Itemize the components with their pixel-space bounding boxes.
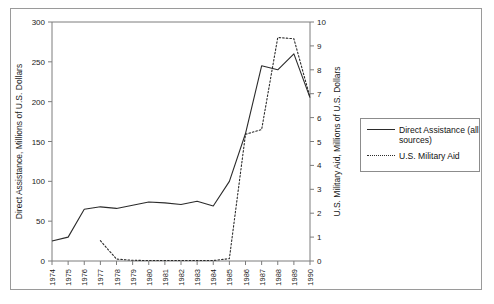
legend-dotted-line-icon: [366, 151, 396, 161]
left-axis-tick-label: 250: [32, 58, 46, 67]
x-axis-tick-label: 1988: [274, 269, 283, 286]
right-axis-tick-label: 8: [317, 66, 322, 75]
right-axis-tick-label: 0: [317, 257, 322, 266]
legend-entry-military-aid: U.S. Military Aid: [366, 151, 460, 161]
right-axis-tick-label: 4: [317, 161, 322, 170]
left-axis-tick-label: 150: [32, 138, 46, 147]
right-axis: 012345678910: [310, 18, 326, 266]
x-axis-tick-label: 1985: [225, 269, 234, 286]
legend-label-military-aid: U.S. Military Aid: [399, 151, 460, 161]
left-axis-tick-label: 200: [32, 98, 46, 107]
x-axis-tick-label: 1987: [258, 269, 267, 286]
legend-label-direct-assistance: Direct Assistance (all sources): [399, 125, 479, 145]
left-axis-title: Direct Assistance, Millions of U.S. Doll…: [14, 64, 24, 219]
x-axis-tick-label: 1989: [290, 269, 299, 286]
left-axis-tick-label: 0: [41, 257, 46, 266]
left-axis-tick-label: 50: [36, 217, 45, 226]
x-axis-tick-label: 1976: [80, 269, 89, 286]
right-axis-tick-label: 2: [317, 209, 322, 218]
right-axis-tick-label: 9: [317, 42, 322, 51]
x-axis-tick-label: 1974: [48, 269, 57, 286]
right-axis-tick-label: 10: [317, 18, 326, 27]
x-axis-tick-label: 1986: [242, 269, 251, 286]
x-axis-tick-label: 1981: [161, 269, 170, 286]
legend-solid-line-icon: [366, 125, 396, 135]
left-axis-tick-label: 100: [32, 177, 46, 186]
x-axis-tick-label: 1978: [113, 269, 122, 286]
x-axis-tick-label: 1983: [193, 269, 202, 286]
legend: Direct Assistance (all sources) U.S. Mil…: [360, 118, 480, 172]
right-axis-tick-label: 7: [317, 90, 322, 99]
data-series-group: [52, 38, 310, 261]
x-axis-tick-label: 1975: [64, 269, 73, 286]
right-axis-tick-label: 6: [317, 114, 322, 123]
right-axis-title: U.S. Military Aid, Millions of U.S. Doll…: [332, 66, 342, 216]
x-axis-tick-label: 1990: [306, 269, 315, 286]
legend-entry-direct-assistance: Direct Assistance (all sources): [366, 125, 479, 145]
x-axis-tick-label: 1979: [129, 269, 138, 286]
x-axis-tick-label: 1984: [209, 269, 218, 286]
chart-screenshot: 050100150200250300 012345678910 19741975…: [0, 0, 494, 304]
x-axis: 1974197519761977197819791980198119821983…: [48, 261, 315, 286]
x-axis-tick-label: 1977: [96, 269, 105, 286]
series-line-direct-assistance: [52, 54, 310, 241]
right-axis-tick-label: 3: [317, 185, 322, 194]
right-axis-tick-label: 1: [317, 233, 322, 242]
x-axis-tick-label: 1982: [177, 269, 186, 286]
right-axis-tick-label: 5: [317, 138, 322, 147]
series-line-military-aid: [100, 38, 310, 261]
left-axis-tick-label: 300: [32, 18, 46, 27]
x-axis-tick-label: 1980: [145, 269, 154, 286]
